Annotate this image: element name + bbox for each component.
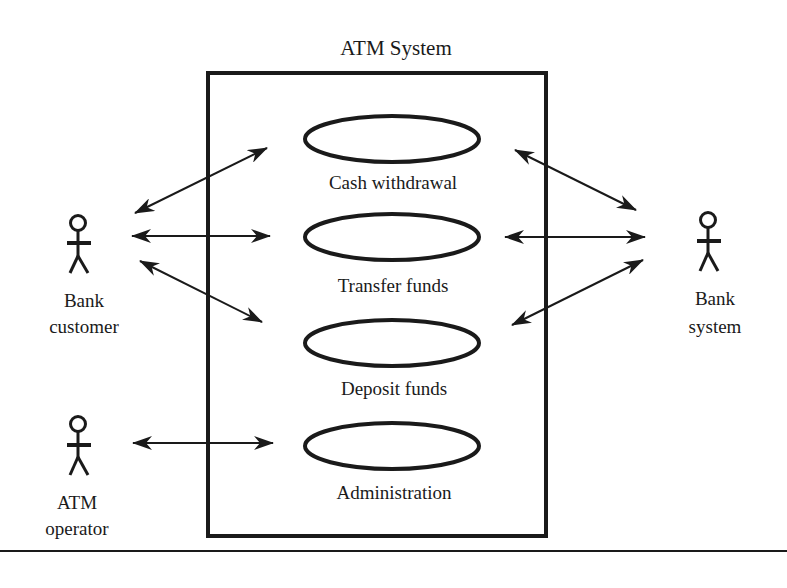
use-case-label-administration: Administration [336,480,451,506]
system-boundary [208,73,546,536]
use-case-cash-withdrawal[interactable] [305,116,479,162]
actor-label-bank-customer-line2: customer [49,314,119,340]
assoc-customer-cash-withdrawal[interactable] [135,148,267,213]
assoc-system-deposit-funds[interactable] [512,260,643,325]
use-case-label-cash-withdrawal: Cash withdrawal [329,170,457,196]
actor-label-bank-system-line2: system [689,314,742,340]
use-case-administration[interactable] [305,423,479,469]
actor-bank-system-icon [697,213,721,272]
use-case-label-transfer-funds: Transfer funds [338,273,449,299]
assoc-customer-deposit-funds[interactable] [140,261,262,322]
actor-label-bank-system-line1: Bank [695,286,735,312]
actor-label-bank-customer-line1: Bank [64,288,104,314]
system-title: ATM System [340,35,451,61]
actor-atm-operator-icon [67,417,91,476]
use-case-label-deposit-funds: Deposit funds [341,376,447,402]
use-case-deposit-funds[interactable] [305,320,479,366]
actor-label-atm-operator-line2: operator [45,516,108,542]
assoc-system-cash-withdrawal[interactable] [515,150,636,210]
actor-label-atm-operator-line1: ATM [57,490,97,516]
actor-bank-customer-icon [67,216,91,274]
use-case-transfer-funds[interactable] [305,214,479,260]
